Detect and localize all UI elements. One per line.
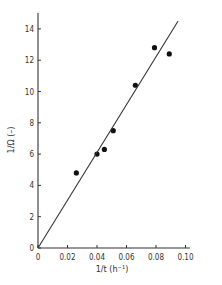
x-tick-label: 0.02: [59, 253, 75, 262]
scatter-chart: 00.020.040.060.080.1002468101214 1/t (h⁻…: [0, 0, 222, 285]
y-tick-label: 6: [29, 150, 34, 159]
y-tick-label: 8: [29, 119, 34, 128]
y-tick-label: 12: [25, 56, 34, 65]
y-axis-label: 1/Ω (–): [6, 126, 16, 153]
x-tick-label: 0: [36, 253, 41, 262]
data-point: [152, 45, 157, 50]
x-tick-label: 0.06: [118, 253, 134, 262]
x-axis-label: 1/t (h⁻¹): [96, 264, 129, 274]
x-tick-label: 0.10: [177, 253, 193, 262]
x-tick-label: 0.04: [89, 253, 105, 262]
series: [38, 21, 178, 248]
y-tick-label: 4: [29, 181, 34, 190]
y-tick-label: 10: [25, 88, 35, 97]
y-tick-label: 2: [29, 213, 34, 222]
data-point: [74, 170, 79, 175]
ticks: 00.020.040.060.080.1002468101214: [25, 25, 194, 262]
data-point: [167, 51, 172, 56]
x-tick-label: 0.08: [148, 253, 164, 262]
fit-line: [38, 21, 178, 248]
data-point: [102, 147, 107, 152]
y-tick-label: 14: [25, 25, 35, 34]
y-tick-label: 0: [29, 244, 34, 253]
